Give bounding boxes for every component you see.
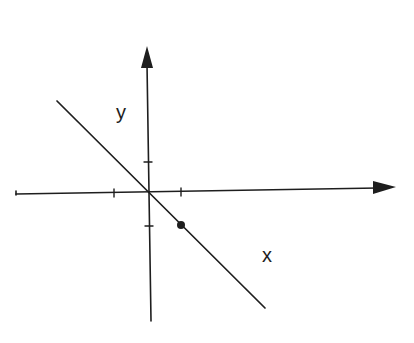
x-axis xyxy=(16,181,396,195)
x-axis-arrow-icon xyxy=(373,181,396,194)
plotted-point xyxy=(177,221,185,229)
y-axis-label: y xyxy=(116,101,126,123)
y-axis xyxy=(141,46,153,321)
x-axis-line xyxy=(16,188,378,194)
coordinate-diagram: y x xyxy=(0,0,414,343)
graph-line-y-equals-neg-x xyxy=(57,101,265,308)
tick-marks xyxy=(114,162,181,226)
x-axis-label: x xyxy=(262,244,272,266)
y-axis-arrow-icon xyxy=(141,46,153,68)
